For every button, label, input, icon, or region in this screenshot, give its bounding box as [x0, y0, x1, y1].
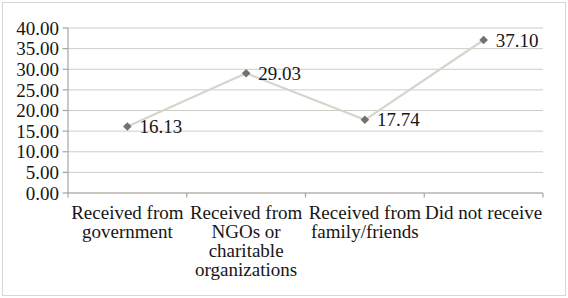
- series-line: [127, 40, 483, 127]
- y-axis-tick-label: 0.00: [26, 183, 59, 204]
- y-axis-tick-label: 35.00: [16, 38, 59, 59]
- y-axis-tick-label: 15.00: [16, 121, 59, 142]
- x-axis-category-label: Received fromgovernment: [71, 202, 184, 242]
- x-axis-category-label-line: government: [82, 221, 173, 242]
- data-point-label: 29.03: [258, 63, 301, 84]
- x-axis-category-label-line: charitable: [209, 240, 284, 261]
- x-axis-category-label-line: organizations: [195, 259, 297, 280]
- data-point-label: 16.13: [139, 116, 182, 137]
- x-axis-category-label: Received fromfamily/friends: [309, 202, 422, 242]
- x-axis-category-label-line: NGOs or: [212, 221, 282, 242]
- y-axis-tick-label: 5.00: [26, 162, 59, 183]
- y-axis-tick-label: 30.00: [16, 59, 59, 80]
- x-axis-category-label-line: Did not receive: [425, 202, 542, 223]
- data-point-marker: [123, 122, 132, 131]
- x-axis-category-label: Did not receive: [425, 202, 542, 223]
- y-axis-tick-label: 25.00: [16, 80, 59, 101]
- x-axis-category-label-line: Received from: [71, 202, 184, 223]
- y-axis-tick-label: 40.00: [16, 18, 59, 39]
- data-point-label: 17.74: [377, 109, 420, 130]
- chart-container: 0.005.0010.0015.0020.0025.0030.0035.0040…: [0, 0, 568, 298]
- y-axis-tick-label: 20.00: [16, 100, 59, 121]
- x-axis-category-label-line: Received from: [309, 202, 422, 223]
- data-point-marker: [242, 69, 251, 78]
- x-axis-category-label-line: Received from: [190, 202, 303, 223]
- y-axis-tick-label: 10.00: [16, 141, 59, 162]
- x-axis-category-label-line: family/friends: [311, 221, 419, 242]
- line-chart: 0.005.0010.0015.0020.0025.0030.0035.0040…: [0, 0, 568, 298]
- gridlines: [68, 28, 543, 193]
- x-axis-category-label: Received fromNGOs orcharitableorganizati…: [190, 202, 303, 280]
- data-point-label: 37.10: [496, 30, 539, 51]
